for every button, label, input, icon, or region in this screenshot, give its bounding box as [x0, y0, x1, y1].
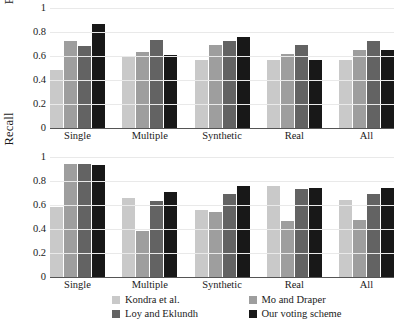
recall-y-tick-label: 0.8: [33, 176, 46, 187]
precision-y-tick-label: 0.2: [33, 99, 46, 110]
bar: [367, 194, 380, 277]
recall-y-tick-label: 0.4: [33, 224, 46, 235]
bar: [164, 55, 177, 128]
recall-category-label: Synthetic: [195, 279, 250, 295]
grouped-bar-chart-figure: Precision 00.20.40.60.81 SingleMultipleS…: [0, 0, 401, 333]
legend-label: Mo and Draper: [262, 294, 326, 305]
recall-plot-area: [50, 157, 394, 277]
precision-group-synthetic: [195, 8, 250, 128]
recall-panel: Recall 00.20.40.60.81 SingleMultipleSynt…: [0, 157, 401, 293]
precision-category-labels: SingleMultipleSyntheticRealAll: [50, 130, 394, 146]
recall-y-tick-label: 0: [41, 272, 46, 283]
bar: [64, 41, 77, 128]
legend-item: Our voting scheme: [249, 308, 381, 319]
recall-category-label: Real: [267, 279, 322, 295]
bar: [150, 40, 163, 128]
precision-panel: Precision 00.20.40.60.81 SingleMultipleS…: [0, 8, 401, 144]
precision-bar-groups: [50, 8, 394, 128]
recall-bar-groups: [50, 157, 394, 277]
precision-y-tick-label: 0: [41, 123, 46, 134]
bar: [122, 198, 135, 277]
bar: [50, 70, 63, 128]
recall-category-label: All: [339, 279, 394, 295]
precision-category-label: Real: [267, 130, 322, 146]
precision-plot-area: [50, 8, 394, 128]
recall-y-tick-label: 1: [41, 152, 46, 163]
precision-y-tick-label: 0.8: [33, 27, 46, 38]
precision-x-axis-line: [50, 128, 394, 129]
bar: [50, 207, 63, 277]
bar: [237, 37, 250, 128]
bar: [295, 45, 308, 128]
bar: [223, 41, 236, 128]
recall-y-tick-label: 0.6: [33, 200, 46, 211]
precision-y-ticks: 00.20.40.60.81: [18, 8, 48, 128]
bar: [309, 188, 322, 277]
bar: [92, 24, 105, 128]
precision-category-label: All: [339, 130, 394, 146]
bar: [367, 41, 380, 128]
bar: [122, 56, 135, 128]
precision-group-multiple: [122, 8, 177, 128]
recall-gridline: [50, 181, 394, 182]
precision-category-label: Single: [50, 130, 105, 146]
bar: [295, 189, 308, 277]
bar: [281, 54, 294, 128]
bar: [237, 186, 250, 277]
recall-category-labels: SingleMultipleSyntheticRealAll: [50, 279, 394, 295]
recall-gridline: [50, 157, 394, 158]
legend-swatch-icon: [249, 310, 257, 318]
recall-group-single: [50, 157, 105, 277]
legend-label: Kondra et al.: [125, 294, 180, 305]
recall-group-synthetic: [195, 157, 250, 277]
chart-legend: Kondra et al.Mo and DraperLoy and Eklund…: [112, 294, 380, 319]
precision-y-tick-label: 1: [41, 3, 46, 14]
recall-gridline: [50, 253, 394, 254]
bar: [209, 212, 222, 277]
bar: [267, 60, 280, 128]
bar: [381, 50, 394, 128]
precision-group-all: [339, 8, 394, 128]
precision-y-tick-label: 0.6: [33, 51, 46, 62]
recall-x-axis-line: [50, 277, 394, 278]
bar: [339, 60, 352, 128]
bar: [353, 50, 366, 128]
legend-label: Our voting scheme: [262, 308, 342, 319]
bar: [267, 186, 280, 277]
recall-gridline: [50, 205, 394, 206]
recall-gridline: [50, 229, 394, 230]
precision-gridline: [50, 56, 394, 57]
legend-item: Loy and Eklundh: [112, 308, 237, 319]
bar: [195, 60, 208, 128]
precision-gridline: [50, 8, 394, 9]
legend-label: Loy and Eklundh: [125, 308, 198, 319]
precision-gridline: [50, 80, 394, 81]
bar: [339, 200, 352, 277]
recall-y-tick-label: 0.2: [33, 248, 46, 259]
precision-gridline: [50, 104, 394, 105]
precision-y-tick-label: 0.4: [33, 75, 46, 86]
precision-category-label: Multiple: [122, 130, 177, 146]
bar: [223, 194, 236, 277]
legend-item: Kondra et al.: [112, 294, 237, 305]
bar: [150, 201, 163, 277]
recall-category-label: Multiple: [122, 279, 177, 295]
precision-group-single: [50, 8, 105, 128]
recall-group-all: [339, 157, 394, 277]
recall-group-multiple: [122, 157, 177, 277]
bar: [78, 46, 91, 128]
bar: [309, 60, 322, 128]
recall-y-ticks: 00.20.40.60.81: [18, 157, 48, 277]
precision-axis-title: Precision: [2, 0, 16, 38]
precision-gridline: [50, 32, 394, 33]
bar: [136, 52, 149, 128]
bar: [209, 45, 222, 128]
bar: [195, 210, 208, 277]
recall-group-real: [267, 157, 322, 277]
precision-category-label: Synthetic: [195, 130, 250, 146]
legend-item: Mo and Draper: [249, 294, 381, 305]
precision-group-real: [267, 8, 322, 128]
recall-category-label: Single: [50, 279, 105, 295]
bar: [381, 188, 394, 277]
legend-swatch-icon: [249, 296, 257, 304]
